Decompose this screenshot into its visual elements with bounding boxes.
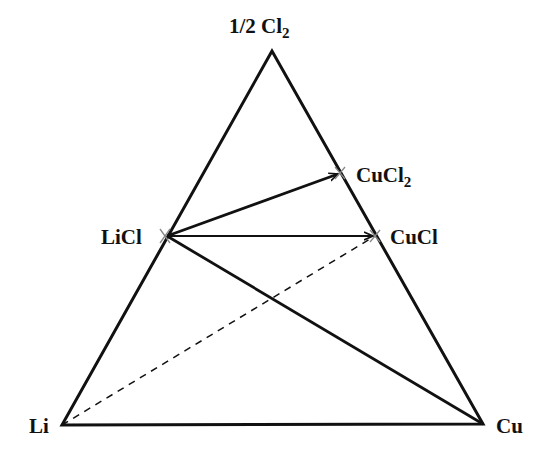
tie-line-licl-cu [167, 236, 483, 424]
label-cucl2: CuCl2 [356, 165, 411, 186]
label-cl2: 1/2 Cl2 [229, 16, 290, 37]
label-cl2-sub: 2 [282, 25, 290, 41]
label-cucl2-text: CuCl [356, 163, 404, 187]
label-cucl2-sub: 2 [404, 174, 412, 190]
label-cl2-text: 1/2 Cl [229, 14, 282, 38]
label-cu: Cu [496, 416, 523, 437]
label-cucl: CuCl [390, 227, 438, 248]
label-licl: LiCl [101, 227, 142, 248]
x-marker-icon [160, 167, 380, 243]
label-li: Li [29, 416, 49, 437]
tie-line-licl-cucl2 [167, 174, 338, 236]
ternary-diagram [0, 0, 549, 456]
